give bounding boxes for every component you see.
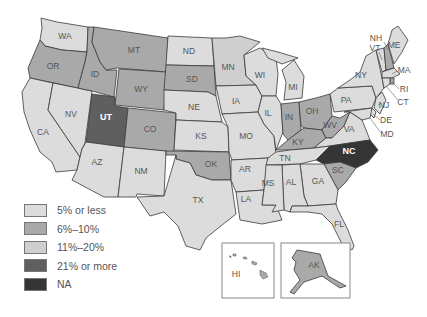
- hawaii-inset: [222, 243, 274, 298]
- label-mi: MI: [288, 82, 297, 92]
- label-tn: TN: [279, 153, 290, 163]
- label-az: AZ: [92, 157, 103, 167]
- state-ms: [262, 165, 284, 212]
- leader-ri: [392, 82, 399, 89]
- legend-item-6-10: 6%–10%: [24, 220, 117, 239]
- label-al: AL: [286, 177, 297, 187]
- legend-label: 6%–10%: [57, 223, 99, 235]
- label-id: ID: [91, 69, 100, 79]
- label-de: DE: [380, 115, 392, 125]
- label-vt: VT: [370, 43, 381, 53]
- legend-item-5-or-less: 5% or less: [24, 201, 117, 220]
- legend-swatch: [24, 222, 47, 235]
- label-me: ME: [388, 40, 401, 50]
- label-nv: NV: [65, 109, 77, 119]
- legend-item-11-20: 11%–20%: [24, 238, 117, 257]
- label-nj: NJ: [379, 100, 389, 110]
- label-or: OR: [47, 61, 60, 71]
- legend-item-na: NA: [24, 275, 117, 294]
- label-mn: MN: [221, 62, 234, 72]
- legend-item-21-or-more: 21% or more: [24, 257, 117, 276]
- label-in: IN: [285, 112, 294, 122]
- label-pa: PA: [341, 95, 352, 105]
- label-ms: MS: [262, 178, 275, 188]
- label-nh: NH: [370, 33, 382, 43]
- legend-label: 5% or less: [57, 204, 106, 216]
- label-wy: WY: [134, 84, 148, 94]
- label-ks: KS: [195, 131, 207, 141]
- legend-swatch: [24, 241, 47, 254]
- label-ky: KY: [292, 137, 304, 147]
- label-ga: GA: [312, 176, 325, 186]
- label-nm: NM: [134, 166, 147, 176]
- label-hi: HI: [232, 269, 241, 279]
- label-va: VA: [344, 124, 355, 134]
- legend-label: 11%–20%: [57, 241, 104, 253]
- label-ny: NY: [355, 70, 367, 80]
- label-wi: WI: [255, 70, 265, 80]
- label-ut: UT: [100, 112, 112, 122]
- label-wa: WA: [58, 31, 72, 41]
- label-la: LA: [241, 194, 252, 204]
- label-ok: OK: [205, 159, 218, 169]
- label-sc: SC: [332, 165, 344, 175]
- label-sd: SD: [186, 74, 198, 84]
- leader-ct: [386, 86, 398, 100]
- label-ak: AK: [308, 260, 320, 270]
- label-ri: RI: [400, 84, 409, 94]
- label-ct: CT: [397, 97, 408, 107]
- map-legend: 5% or less 6%–10% 11%–20% 21% or more NA: [24, 201, 117, 294]
- legend-label: NA: [57, 278, 72, 290]
- label-fl: FL: [334, 219, 344, 229]
- legend-label: 21% or more: [57, 260, 117, 272]
- label-ne: NE: [188, 102, 200, 112]
- legend-swatch: [24, 204, 47, 217]
- label-oh: OH: [306, 106, 319, 116]
- label-nd: ND: [183, 46, 195, 56]
- label-ca: CA: [37, 127, 49, 137]
- label-md: MD: [380, 129, 393, 139]
- label-mo: MO: [239, 131, 253, 141]
- label-tx: TX: [193, 195, 204, 205]
- label-il: IL: [264, 108, 271, 118]
- label-ar: AR: [239, 164, 251, 174]
- label-ia: IA: [232, 96, 240, 106]
- legend-swatch: [24, 278, 47, 291]
- label-ma: MA: [398, 65, 411, 75]
- label-wv: WV: [323, 120, 337, 130]
- label-co: CO: [144, 124, 157, 134]
- label-mt: MT: [128, 45, 140, 55]
- label-nc: NC: [343, 146, 356, 156]
- legend-swatch: [24, 259, 47, 272]
